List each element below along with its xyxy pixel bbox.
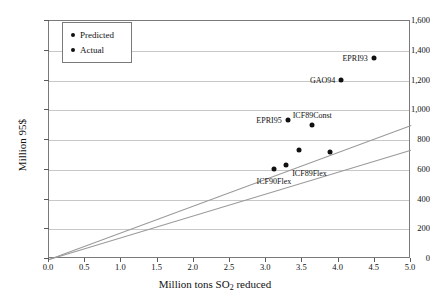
x-tick-label: 5.0 (405, 262, 416, 272)
y-axis-title: Million 95$ (16, 75, 28, 215)
data-point-label: ICF89Const (293, 111, 332, 120)
gridline (49, 81, 409, 82)
y-tick-label: 400 (390, 194, 430, 204)
y-tick-label: 200 (390, 223, 430, 233)
data-point (285, 117, 290, 122)
y-tick-label: 1,600 (390, 15, 430, 25)
data-point-label: ICF90Flex (257, 177, 292, 186)
gridline (49, 229, 409, 230)
y-tick-label: 1,200 (390, 75, 430, 85)
x-tick-label: 3.5 (296, 262, 307, 272)
trend-line (49, 150, 411, 260)
y-tick-mark (44, 80, 49, 81)
x-tick-label: 1.5 (151, 262, 162, 272)
x-tick-mark (301, 258, 302, 262)
data-point-label: EPRI95 (256, 115, 281, 124)
data-point (296, 148, 301, 153)
gridline (49, 110, 409, 111)
y-tick-mark (44, 169, 49, 170)
x-tick-mark (338, 258, 339, 262)
data-point (371, 55, 376, 60)
gridline (49, 170, 409, 171)
x-tick-label: 4.0 (332, 262, 343, 272)
x-tick-mark (374, 258, 375, 262)
x-tick-label: 2.0 (187, 262, 198, 272)
trend-line (49, 125, 411, 260)
y-tick-label: 1,400 (390, 45, 430, 55)
y-tick-mark (44, 50, 49, 51)
so2-cost-scatter-chart: 02004006008001,0001,2001,4001,600 0.00.5… (0, 0, 430, 301)
x-axis-title: Million tons SO2 reduced (0, 278, 430, 292)
data-point (284, 163, 289, 168)
x-tick-label: 1.0 (115, 262, 126, 272)
x-tick-mark (48, 258, 49, 262)
x-tick-label: 0.0 (43, 262, 54, 272)
x-tick-mark (265, 258, 266, 262)
x-tick-label: 4.5 (368, 262, 379, 272)
chart-legend: Predicted Actual (62, 22, 132, 63)
x-tick-mark (120, 258, 121, 262)
y-tick-label: 800 (390, 134, 430, 144)
y-tick-mark (44, 199, 49, 200)
y-tick-mark (44, 109, 49, 110)
y-tick-label: 1,000 (390, 104, 430, 114)
y-tick-mark (44, 139, 49, 140)
x-tick-mark (84, 258, 85, 262)
x-tick-mark (229, 258, 230, 262)
data-point-label: GAO94 (310, 75, 335, 84)
y-tick-label: 600 (390, 164, 430, 174)
data-point-label: ICF89Flex (292, 169, 327, 178)
y-tick-mark (44, 20, 49, 21)
x-tick-mark (193, 258, 194, 262)
gridline (49, 200, 409, 201)
y-tick-mark (44, 228, 49, 229)
x-tick-mark (410, 258, 411, 262)
subscript-2: 2 (230, 283, 234, 292)
x-tick-mark (157, 258, 158, 262)
legend-item-actual: Actual (71, 45, 125, 55)
x-tick-label: 3.0 (260, 262, 271, 272)
dot-marker-icon (71, 48, 75, 52)
dot-marker-icon (71, 33, 75, 37)
data-point (328, 150, 333, 155)
data-point (310, 122, 315, 127)
data-point (271, 166, 276, 171)
x-tick-label: 0.5 (79, 262, 90, 272)
legend-label: Predicted (80, 30, 114, 40)
legend-item-predicted: Predicted (71, 30, 125, 40)
x-tick-label: 2.5 (224, 262, 235, 272)
data-point-label: EPRI93 (342, 53, 367, 62)
legend-label: Actual (80, 45, 104, 55)
gridline (49, 140, 409, 141)
data-point (339, 77, 344, 82)
